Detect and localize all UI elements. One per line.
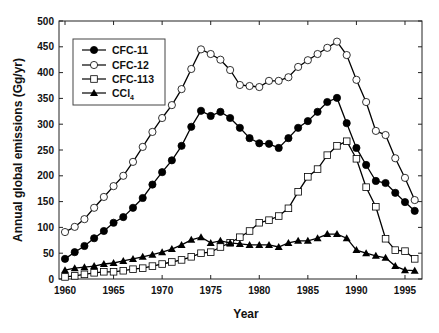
y-tick-label: 150 — [37, 196, 54, 207]
legend-label: CFC-113 — [112, 73, 154, 85]
y-tick-label: 500 — [37, 16, 54, 27]
x-tick-label: 1970 — [151, 285, 174, 296]
y-tick-label: 100 — [37, 222, 54, 233]
y-tick-label: 200 — [37, 170, 54, 181]
y-tick-label: 400 — [37, 67, 54, 78]
x-axis-title: Year — [233, 307, 259, 321]
y-tick-label: 0 — [48, 274, 54, 285]
x-tick-label: 1985 — [297, 285, 320, 296]
x-tick-label: 1975 — [200, 285, 223, 296]
legend: CFC-11CFC-12CFC-113CCl4 — [73, 39, 165, 105]
y-tick-label: 300 — [37, 119, 54, 130]
y-tick-label: 450 — [37, 41, 54, 52]
series-cfc-113 — [62, 138, 418, 280]
y-tick-label: 50 — [43, 248, 55, 259]
open-square-icon — [91, 76, 98, 83]
x-tick-label: 1980 — [248, 285, 271, 296]
y-tick-label: 350 — [37, 93, 54, 104]
y-tick-label: 250 — [37, 145, 54, 156]
x-tick-label: 1965 — [102, 285, 125, 296]
filled-circle-icon — [90, 46, 97, 53]
x-tick-label: 1960 — [54, 285, 77, 296]
emissions-chart: 050100150200250300350400450500 196019651… — [0, 0, 439, 333]
legend-label: CFC-12 — [112, 59, 149, 71]
x-tick-label: 1995 — [394, 285, 417, 296]
legend-label: CFC-11 — [112, 44, 148, 56]
x-tick-label: 1990 — [345, 285, 368, 296]
open-circle-icon — [90, 61, 97, 68]
y-axis-title: Annual global emissions (Gg/yr) — [11, 58, 25, 242]
